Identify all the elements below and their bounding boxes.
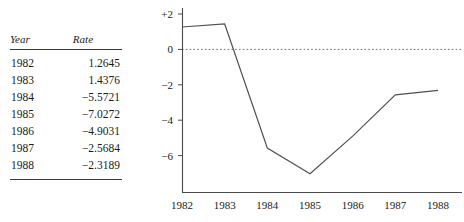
table-header: Year Rate	[10, 33, 122, 50]
table-row: 19831.4376	[10, 72, 122, 89]
x-tick-label: 1987	[384, 199, 407, 211]
cell-year: 1984	[10, 89, 52, 106]
x-tick-label: 1988	[427, 199, 450, 211]
y-axis-ticks: +20−2−4−6	[161, 8, 182, 162]
column-header-year: Year	[10, 33, 52, 50]
cell-rate: 1.4376	[52, 72, 122, 89]
table-row: 1988−2.3189	[10, 157, 122, 180]
x-axis-ticks: 1982198319841985198619871988	[171, 199, 450, 211]
x-tick-label: 1983	[214, 199, 237, 211]
cell-year: 1985	[10, 106, 52, 123]
table-row: 1987−2.5684	[10, 140, 122, 157]
x-tick-label: 1982	[171, 199, 193, 211]
table-row: 1985−7.0272	[10, 106, 122, 123]
cell-year: 1988	[10, 157, 52, 180]
cell-rate: 1.2645	[52, 50, 122, 72]
y-tick-label: −4	[161, 114, 173, 126]
table-row: 1984−5.5721	[10, 89, 122, 106]
column-header-rate: Rate	[52, 33, 122, 50]
table-row: 1986−4.9031	[10, 123, 122, 140]
x-tick-label: 1984	[256, 199, 279, 211]
x-tick-label: 1986	[342, 199, 365, 211]
y-tick-label: −2	[161, 79, 173, 91]
table-body: 19821.264519831.43761984−5.57211985−7.02…	[10, 50, 122, 180]
table-row: 19821.2645	[10, 50, 122, 72]
cell-rate: −2.3189	[52, 157, 122, 180]
cell-rate: −5.5721	[52, 89, 122, 106]
rate-line-chart: +20−2−4−6 1982198319841985198619871988	[140, 0, 464, 222]
cell-year: 1983	[10, 72, 52, 89]
x-tick-label: 1985	[299, 199, 322, 211]
rate-table: Year Rate 19821.264519831.43761984−5.572…	[10, 33, 122, 180]
rate-series-line	[182, 24, 438, 174]
y-tick-label: −6	[161, 150, 173, 162]
table-header-row: Year Rate	[10, 33, 122, 50]
cell-rate: −2.5684	[52, 140, 122, 157]
y-tick-label: +2	[161, 8, 173, 20]
cell-year: 1987	[10, 140, 52, 157]
chart-svg: +20−2−4−6 1982198319841985198619871988	[140, 0, 464, 222]
cell-rate: −7.0272	[52, 106, 122, 123]
cell-rate: −4.9031	[52, 123, 122, 140]
cell-year: 1982	[10, 50, 52, 72]
cell-year: 1986	[10, 123, 52, 140]
figure-container: Year Rate 19821.264519831.43761984−5.572…	[0, 0, 464, 222]
y-tick-label: 0	[168, 43, 174, 55]
